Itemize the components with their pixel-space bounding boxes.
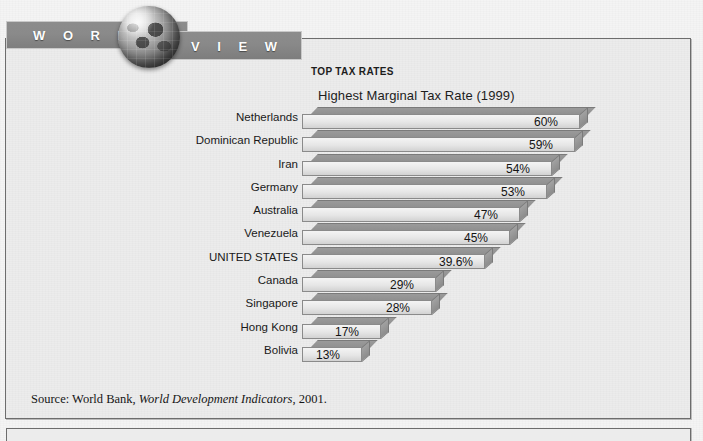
bar: 53% — [302, 177, 556, 200]
bar-category-label: Bolivia — [264, 344, 298, 356]
source-suffix: , 2001. — [292, 392, 326, 406]
bar-value-label: 59% — [529, 138, 553, 152]
banner-word-view: V I E W — [191, 38, 284, 53]
bar-value-label: 39.6% — [439, 255, 473, 269]
bar-category-label: Dominican Republic — [196, 134, 298, 146]
source-title-italic: World Development Indicators — [139, 392, 293, 406]
source-note: Source: World Bank, World Development In… — [31, 392, 327, 407]
bar-value-label: 17% — [335, 325, 359, 339]
bar-row: Hong Kong17% — [150, 317, 670, 340]
bar: 17% — [302, 317, 390, 340]
bar-category-label: UNITED STATES — [209, 251, 298, 263]
bar-category-label: Germany — [251, 181, 298, 193]
bar-front-face — [302, 277, 436, 292]
bar-value-label: 28% — [386, 301, 410, 315]
bar: 28% — [302, 293, 441, 316]
bar-category-label: Iran — [278, 158, 298, 170]
bar-category-label: Canada — [258, 274, 298, 286]
bar-row: Australia47% — [150, 200, 670, 223]
bar-category-label: Australia — [253, 204, 298, 216]
bar-row: Canada29% — [150, 270, 670, 293]
bar: 45% — [302, 223, 519, 246]
chart-title: Highest Marginal Tax Rate (1999) — [318, 88, 515, 103]
globe-icon — [118, 6, 180, 68]
bar-value-label: 54% — [506, 162, 530, 176]
source-prefix: Source: World Bank, — [31, 392, 139, 406]
bar-value-label: 45% — [464, 231, 488, 245]
bar-category-label: Netherlands — [236, 111, 298, 123]
world-view-banner: W O R L D V I E W — [0, 0, 330, 70]
bar: 60% — [302, 107, 589, 130]
next-panel-edge — [6, 428, 691, 441]
bar-row: Bolivia13% — [150, 340, 670, 363]
bar-row: Germany53% — [150, 177, 670, 200]
bar-row: Iran54% — [150, 154, 670, 177]
bar-category-label: Singapore — [246, 297, 298, 309]
bar-row: Dominican Republic59% — [150, 130, 670, 153]
bar-row: UNITED STATES39.6% — [150, 247, 670, 270]
bar: 13% — [302, 340, 371, 363]
bar-value-label: 53% — [501, 185, 525, 199]
bar-row: Singapore28% — [150, 293, 670, 316]
bar-row: Venezuela45% — [150, 223, 670, 246]
bar-value-label: 47% — [474, 208, 498, 222]
bar-value-label: 29% — [390, 278, 414, 292]
bar: 59% — [302, 130, 584, 153]
bar-value-label: 13% — [316, 348, 340, 362]
bar-category-label: Hong Kong — [240, 321, 298, 333]
bar-front-face — [302, 300, 432, 315]
bar: 29% — [302, 270, 445, 293]
bar-value-label: 60% — [534, 115, 558, 129]
bar-category-label: Venezuela — [244, 227, 298, 239]
bar: 39.6% — [302, 247, 494, 270]
bar-row: Netherlands60% — [150, 107, 670, 130]
bar: 47% — [302, 200, 529, 223]
bar-chart: Netherlands60%Dominican Republic59%Iran5… — [150, 107, 670, 375]
bar: 54% — [302, 154, 561, 177]
